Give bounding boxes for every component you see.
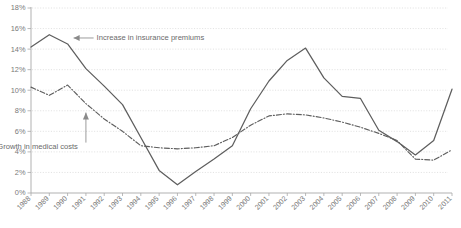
x-tick-label: 1993	[106, 194, 124, 212]
x-tick-label: 2010	[417, 194, 435, 212]
y-tick-label: 12%	[11, 65, 26, 74]
x-tick-label: 2001	[253, 194, 271, 212]
x-tick-label: 2004	[308, 194, 326, 212]
y-tick-label: 16%	[11, 24, 26, 33]
x-tick-label: 2008	[381, 194, 399, 212]
series-line-medical-costs	[31, 85, 452, 160]
x-tick-label: 1999	[216, 194, 234, 212]
x-axis-ticks: 1988198919901991199219931994199519961997…	[15, 193, 454, 212]
series-layer	[31, 35, 452, 185]
x-tick-label: 1991	[70, 194, 88, 212]
x-tick-label: 2005	[326, 194, 344, 212]
chart-container: 0%2%4%6%8%10%12%14%16%18% 19881989199019…	[0, 0, 461, 228]
y-tick-label: 2%	[15, 168, 26, 177]
x-tick-label: 2003	[289, 194, 307, 212]
x-tick-label: 2007	[363, 194, 381, 212]
x-tick-label: 1998	[198, 194, 216, 212]
x-tick-label: 2011	[436, 194, 453, 211]
y-tick-label: 8%	[15, 106, 26, 115]
x-tick-label: 1996	[161, 194, 179, 212]
y-axis-ticks: 0%2%4%6%8%10%12%14%16%18%	[11, 3, 31, 197]
annotation-label-medical: Growth in medical costs	[0, 142, 78, 151]
annotation-arrow-premiums	[74, 35, 80, 41]
y-tick-label: 6%	[15, 127, 26, 136]
x-tick-label: 2002	[271, 194, 289, 212]
line-chart: 0%2%4%6%8%10%12%14%16%18% 19881989199019…	[0, 0, 461, 228]
annotation-arrow-medical	[83, 113, 89, 120]
x-tick-label: 1995	[143, 194, 161, 212]
x-tick-label: 2006	[344, 194, 362, 212]
x-tick-label: 1992	[88, 194, 106, 212]
x-tick-label: 2000	[234, 194, 252, 212]
annotation-label-premiums: Increase in insurance premiums	[97, 33, 205, 42]
x-tick-label: 1989	[33, 194, 51, 212]
gridlines	[32, 8, 448, 172]
x-tick-label: 1994	[125, 194, 143, 212]
series-line-insurance-premiums	[31, 35, 452, 185]
x-tick-label: 1990	[51, 194, 69, 212]
x-tick-label: 1997	[179, 194, 197, 212]
y-tick-label: 18%	[11, 3, 26, 12]
y-tick-label: 14%	[11, 45, 26, 54]
y-tick-label: 10%	[11, 86, 26, 95]
x-tick-label: 2009	[399, 194, 417, 212]
